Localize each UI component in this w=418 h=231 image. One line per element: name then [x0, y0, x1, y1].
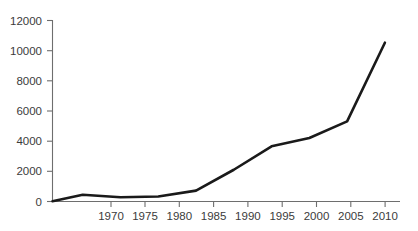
chart-canvas: 12000 10000 8000 6000 4000 2000 0 1970 1… — [0, 0, 418, 231]
y-tick-label: 12000 — [10, 15, 42, 27]
y-tick-label: 8000 — [16, 75, 42, 87]
line-chart: 12000 10000 8000 6000 4000 2000 0 1970 1… — [0, 0, 418, 231]
y-tick-marks — [47, 21, 53, 202]
x-tick-label: 2005 — [338, 210, 364, 222]
y-tick-label: 4000 — [16, 135, 42, 147]
x-tick-label: 2010 — [372, 210, 398, 222]
x-tick-label: 1990 — [235, 210, 261, 222]
x-tick-label: 2000 — [304, 210, 330, 222]
x-tick-label: 1985 — [201, 210, 227, 222]
y-tick-label: 6000 — [16, 105, 42, 117]
y-tick-label: 0 — [36, 196, 42, 208]
x-tick-label: 1970 — [98, 210, 124, 222]
y-tick-label: 10000 — [10, 45, 42, 57]
y-tick-label: 2000 — [16, 165, 42, 177]
x-tick-label: 1980 — [167, 210, 193, 222]
x-tick-marks — [111, 202, 385, 208]
data-line-series-0 — [53, 43, 385, 202]
x-tick-label: 1995 — [269, 210, 295, 222]
x-tick-label: 1975 — [132, 210, 158, 222]
